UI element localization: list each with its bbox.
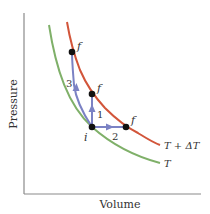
x-axis-label: Volume bbox=[98, 198, 140, 211]
label-initial: i bbox=[84, 131, 88, 144]
y-axis-label: Pressure bbox=[7, 79, 20, 128]
point-final-3 bbox=[69, 49, 76, 56]
axes bbox=[24, 13, 201, 194]
label-final-1: f bbox=[96, 82, 103, 95]
label-isotherm-t-plus-dt: T + ΔT bbox=[164, 140, 201, 151]
label-final-2: f bbox=[130, 114, 137, 127]
path-2 bbox=[92, 124, 126, 131]
arrow-up-icon bbox=[89, 104, 96, 112]
label-path-3: 3 bbox=[66, 78, 72, 89]
point-final-2 bbox=[123, 124, 130, 131]
label-final-3: f bbox=[76, 40, 83, 53]
pv-diagram: Pressure Volume i f f f 3 1 2 T + ΔT T bbox=[0, 0, 210, 214]
point-final-1 bbox=[89, 91, 96, 98]
label-path-2: 2 bbox=[112, 131, 118, 142]
label-path-1: 1 bbox=[97, 109, 103, 120]
arrow-right-icon bbox=[106, 124, 114, 131]
isotherm-t-curve bbox=[49, 25, 160, 163]
point-initial bbox=[89, 124, 96, 131]
label-isotherm-t: T bbox=[164, 158, 172, 169]
